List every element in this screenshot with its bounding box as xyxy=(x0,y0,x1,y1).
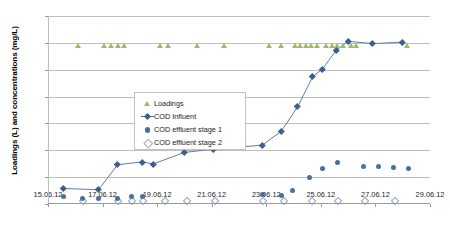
x-axis-tick-mark xyxy=(157,204,158,207)
cod-effluent-stage-1-data-point xyxy=(290,188,295,193)
loadings-data-point xyxy=(266,43,272,48)
loadings-data-point xyxy=(165,43,171,48)
loadings-data-point xyxy=(314,43,320,48)
legend-label: COD Influent xyxy=(154,113,196,120)
y-axis-tick-mark xyxy=(45,97,48,98)
y-axis-tick-mark xyxy=(45,43,48,44)
loadings-data-point xyxy=(75,43,81,48)
chart-legend: Loadings COD Influent COD effluent stage… xyxy=(134,92,246,150)
chart-container: Loadings (L) and concentrations (mg/L) 0… xyxy=(0,0,450,229)
y-axis-tick-mark xyxy=(45,177,48,178)
cod-effluent-stage-1-data-point xyxy=(279,193,284,198)
y-axis-tick-mark xyxy=(45,16,48,17)
loadings-data-point xyxy=(121,43,127,48)
y-axis-tick-mark xyxy=(45,123,48,124)
cod-effluent-stage-1-data-point xyxy=(61,194,66,199)
loadings-data-point xyxy=(157,43,163,48)
legend-item-cod-effluent-stage-2: COD effluent stage 2 xyxy=(141,136,245,149)
x-axis-tick-mark xyxy=(375,204,376,207)
cod-effluent-stage-1-data-point xyxy=(406,166,411,171)
plot-area: Loadings COD Influent COD effluent stage… xyxy=(48,16,430,204)
y-axis-tick-mark xyxy=(45,70,48,71)
cod-effluent-stage-1-data-point xyxy=(335,160,340,165)
legend-item-loadings: Loadings xyxy=(141,97,245,110)
triangle-marker-icon xyxy=(141,98,154,109)
diamond-line-marker-icon xyxy=(141,111,154,122)
legend-item-cod-influent: COD Influent xyxy=(141,110,245,123)
cod-effluent-stage-1-data-point xyxy=(80,196,85,201)
loadings-data-point xyxy=(108,43,114,48)
loadings-data-point xyxy=(194,43,200,48)
cod-effluent-stage-1-data-point xyxy=(129,194,134,199)
open-diamond-marker-icon xyxy=(141,137,154,148)
cod-effluent-stage-1-data-point xyxy=(361,164,366,169)
loadings-data-point xyxy=(221,43,227,48)
x-axis-tick-mark xyxy=(103,204,104,207)
x-axis-tick-mark xyxy=(48,204,49,207)
cod-effluent-stage-1-data-point xyxy=(376,164,381,169)
cod-effluent-stage-1-data-point xyxy=(96,196,101,201)
loadings-data-point xyxy=(353,43,359,48)
legend-item-cod-effluent-stage-1: COD effluent stage 1 xyxy=(141,123,245,136)
loadings-data-point xyxy=(404,43,410,48)
loadings-data-point xyxy=(278,43,284,48)
cod-effluent-stage-1-data-point xyxy=(115,196,120,201)
x-axis-tick-mark xyxy=(212,204,213,207)
loadings-data-point xyxy=(101,43,107,48)
loadings-data-point xyxy=(115,43,121,48)
legend-label: Loadings xyxy=(154,100,184,107)
y-axis-title: Loadings (L) and concentrations (mg/L) xyxy=(10,1,19,201)
y-axis-tick-mark xyxy=(45,150,48,151)
x-axis-tick-mark xyxy=(266,204,267,207)
x-axis-tick-mark xyxy=(321,204,322,207)
x-axis-tick-mark xyxy=(430,204,431,207)
loadings-data-point xyxy=(340,43,346,48)
circle-marker-icon xyxy=(141,124,154,135)
cod-effluent-stage-1-data-point xyxy=(391,165,396,170)
legend-label: COD effluent stage 1 xyxy=(154,126,222,133)
legend-label: COD effluent stage 2 xyxy=(154,139,222,146)
cod-effluent-stage-1-data-point xyxy=(140,194,145,199)
cod-effluent-stage-1-data-point xyxy=(320,166,325,171)
x-axis-line xyxy=(48,203,430,204)
